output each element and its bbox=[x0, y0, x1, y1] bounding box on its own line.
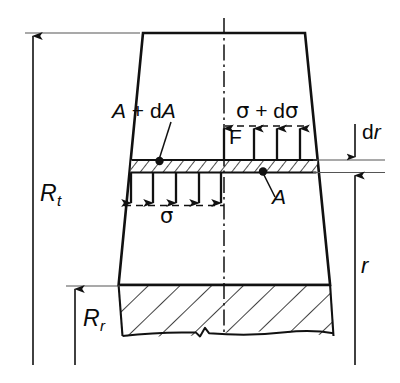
label-dr-var: r bbox=[374, 120, 381, 143]
label-thickness-dr: dr bbox=[362, 121, 381, 142]
label-stress-lower: σ bbox=[160, 206, 173, 227]
label-stress-upper-d: d bbox=[273, 99, 285, 122]
root-block bbox=[110, 280, 345, 344]
label-stress-upper-dsigma: σ bbox=[285, 99, 298, 123]
label-stress-upper-operator: + bbox=[249, 99, 273, 122]
label-stress-upper: σ + dσ bbox=[236, 100, 298, 122]
label-area-upper-d: d bbox=[150, 99, 162, 122]
leader-dot-area-lower bbox=[259, 167, 267, 175]
label-Rt-sub: t bbox=[57, 192, 61, 209]
diagram-canvas: A + dA σ + dσ F σ A dr Rt Rr r bbox=[0, 0, 400, 383]
label-dr-d: d bbox=[362, 120, 374, 143]
leader-dot-area-upper bbox=[155, 157, 163, 165]
label-radius-tip: Rt bbox=[40, 182, 61, 205]
label-radius-root: Rr bbox=[83, 307, 105, 330]
label-area-lower: A bbox=[272, 186, 286, 207]
label-radius-element: r bbox=[361, 255, 368, 277]
label-area-upper-var: A bbox=[162, 99, 176, 122]
label-area-upper-operator: + bbox=[126, 99, 150, 122]
label-Rt-base: R bbox=[40, 180, 57, 206]
label-Rr-base: R bbox=[83, 305, 100, 331]
label-area-upper-base: A bbox=[112, 99, 126, 122]
label-area-upper: A + dA bbox=[112, 100, 176, 121]
label-Rr-sub: r bbox=[100, 317, 105, 334]
label-stress-upper-sigma: σ bbox=[236, 99, 249, 123]
label-force-F: F bbox=[229, 126, 242, 147]
